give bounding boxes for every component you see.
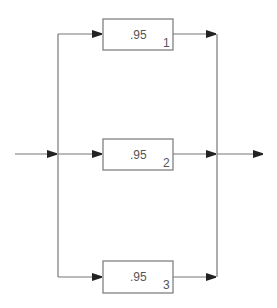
- block-2-value: .95: [130, 148, 147, 162]
- block-3-index: 3: [163, 278, 170, 292]
- block-2-index: 2: [163, 156, 170, 170]
- block-3-value: .95: [130, 270, 147, 284]
- block-1-value: .95: [130, 28, 147, 42]
- parallel-system-diagram: .95 1 .95 2 .95 3: [0, 0, 277, 308]
- block-1-index: 1: [163, 36, 170, 50]
